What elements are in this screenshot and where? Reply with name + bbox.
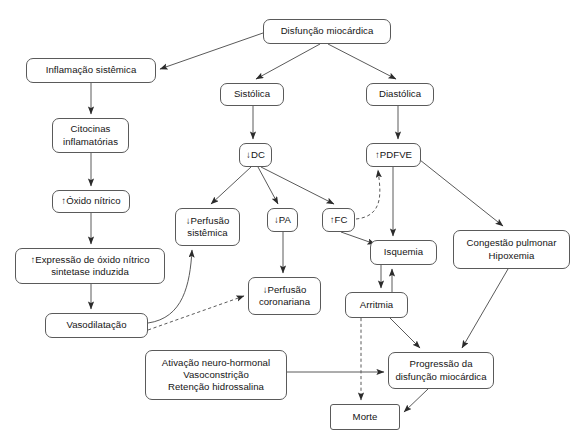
node-arritmia[interactable]: Arritmia [345,292,408,318]
node-inflamacao[interactable]: Inflamação sistêmica [26,58,156,83]
node-label-vasodilatacao: Vasodilatação [66,319,126,331]
node-ativacao[interactable]: Ativação neuro-hormonal Vasoconstrição R… [145,350,287,400]
edge-arritmia-to-progressao [390,318,420,348]
node-pdfve[interactable]: ↑PDFVE [366,143,421,167]
node-label-pa: ↓PA [274,214,291,226]
node-sistolica[interactable]: Sistólica [220,83,284,106]
node-pa[interactable]: ↓PA [267,208,298,232]
node-oxido[interactable]: ↑Óxido nítrico [52,190,130,213]
edge-fc-to-pdfve [356,170,380,219]
node-label-progressao: Progressão da disfunção miocárdica [395,358,486,382]
node-label-perf_coron: ↓Perfusão coronariana [259,284,310,308]
node-vasodilatacao[interactable]: Vasodilatação [45,313,148,338]
node-perf_coron[interactable]: ↓Perfusão coronariana [248,277,321,315]
flowchart-canvas: Disfunção miocárdicaInflamação sistêmica… [0,0,579,445]
node-isquemia[interactable]: Isquemia [370,240,437,265]
node-progressao[interactable]: Progressão da disfunção miocárdica [388,352,494,389]
node-label-pdfve: ↑PDFVE [375,149,412,161]
node-diastolica[interactable]: Diastólica [366,83,434,106]
node-label-oxido: ↑Óxido nítrico [61,195,120,207]
node-label-morte: Morte [353,411,378,423]
node-fc[interactable]: ↑FC [322,208,355,232]
edge-congestao-to-progressao [462,269,508,348]
node-perf_sist[interactable]: ↓Perfusão sistêmica [175,208,240,246]
node-label-diastolica: Diastólica [379,88,421,100]
node-label-isquemia: Isquemia [384,246,423,258]
node-disfuncao[interactable]: Disfunção miocárdica [263,19,391,44]
node-citocinas[interactable]: Citocinas inflamatórias [52,118,129,153]
node-label-inflamacao: Inflamação sistêmica [46,64,137,76]
node-expressao[interactable]: ↑Expressão de óxido nítrico sintetase in… [15,248,165,284]
edge-dc-to-perf_sist [211,167,251,204]
edge-pdfve-to-congestao [420,160,503,226]
node-label-congestao: Congestão pulmonar Hipoxemia [467,237,557,261]
node-congestao[interactable]: Congestão pulmonar Hipoxemia [453,230,570,269]
edge-disfuncao-to-inflamacao [160,33,263,69]
node-label-fc: ↑FC [330,214,348,226]
edge-fc-to-isquemia [341,232,375,244]
edge-progressao-to-morte [404,389,428,412]
edge-disfuncao-to-diastolica [328,44,396,79]
node-label-sistolica: Sistólica [234,88,270,100]
node-label-dc: ↓DC [246,149,265,161]
edge-dc-to-fc [261,167,334,204]
node-label-disfuncao: Disfunção miocárdica [281,25,374,37]
node-label-citocinas: Citocinas inflamatórias [63,123,118,147]
node-dc[interactable]: ↓DC [239,143,272,167]
edge-disfuncao-to-sistolica [256,44,320,79]
node-label-expressao: ↑Expressão de óxido nítrico sintetase in… [30,254,149,278]
edge-vasodilatacao-to-perf_coron [148,296,244,330]
node-label-arritmia: Arritmia [360,299,393,311]
node-morte[interactable]: Morte [330,404,400,430]
edge-dc-to-pa [258,167,278,204]
node-label-perf_sist: ↓Perfusão sistêmica [186,215,230,239]
node-label-ativacao: Ativação neuro-hormonal Vasoconstrição R… [162,357,270,394]
